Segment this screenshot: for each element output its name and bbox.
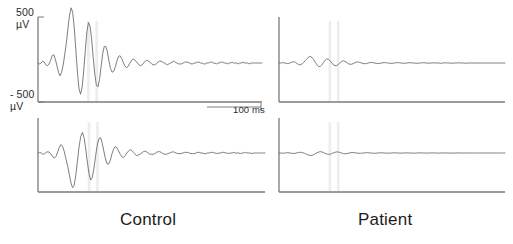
waveform-panel-control-bottom: [38, 118, 265, 192]
group-label-patient: Patient: [358, 210, 412, 230]
waveform-panel-patient-bottom: [279, 118, 505, 192]
waveform-trace: [38, 8, 262, 94]
waveform-trace: [279, 56, 505, 66]
waveform-panel-patient-top: [279, 17, 505, 102]
y-axis-bottom-label: - 500 µV: [10, 88, 34, 112]
time-scale-label: 100 ms: [233, 104, 265, 116]
y-axis-ticks: [38, 17, 44, 102]
waveform-trace: [38, 132, 265, 187]
waveform-trace: [279, 152, 505, 156]
waveform-panel-control-top: [38, 8, 262, 102]
erp-figure: [0, 0, 513, 244]
group-label-control: Control: [120, 210, 176, 230]
panel-group: [38, 8, 505, 192]
y-axis-top-label: 500 µV: [16, 6, 34, 30]
